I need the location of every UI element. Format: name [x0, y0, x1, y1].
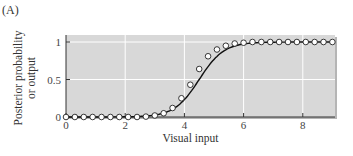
- data-marker: [90, 114, 96, 120]
- data-marker: [134, 114, 140, 120]
- data-marker: [108, 114, 114, 120]
- data-marker: [116, 114, 122, 120]
- data-marker: [143, 114, 149, 120]
- data-marker: [330, 39, 336, 45]
- data-marker: [303, 39, 309, 45]
- data-marker: [152, 113, 158, 119]
- data-marker: [321, 39, 327, 45]
- data-marker: [63, 114, 69, 120]
- y-axis-title: Posterior probabilityor output: [12, 30, 38, 125]
- x-axis-title: Visual input: [163, 132, 220, 145]
- data-marker: [214, 47, 220, 53]
- data-marker: [312, 39, 318, 45]
- x-tick-label: 4: [182, 119, 188, 131]
- data-marker: [223, 43, 229, 49]
- data-marker: [250, 39, 256, 45]
- y-tick-label: 0: [56, 111, 62, 123]
- data-marker: [294, 39, 300, 45]
- data-marker: [285, 39, 291, 45]
- data-marker: [259, 39, 265, 45]
- data-marker: [99, 114, 105, 120]
- y-tick-label: 0.5: [47, 74, 61, 86]
- data-marker: [161, 110, 167, 116]
- plot-area: [66, 35, 335, 117]
- sigmoid-chart: 0246800.51Visual inputPosterior probabil…: [0, 0, 353, 156]
- data-marker: [179, 95, 185, 101]
- data-marker: [196, 66, 202, 72]
- x-tick-label: 0: [63, 119, 69, 131]
- x-tick-label: 8: [300, 119, 306, 131]
- data-marker: [170, 105, 176, 111]
- data-marker: [125, 114, 131, 120]
- x-tick-label: 2: [122, 119, 128, 131]
- y-tick-label: 1: [56, 36, 62, 48]
- data-marker: [72, 114, 78, 120]
- data-marker: [232, 41, 238, 47]
- x-tick-label: 6: [241, 119, 247, 131]
- data-marker: [241, 40, 247, 46]
- data-marker: [267, 39, 273, 45]
- data-marker: [188, 82, 194, 88]
- data-marker: [81, 114, 87, 120]
- data-marker: [205, 53, 211, 59]
- data-marker: [276, 39, 282, 45]
